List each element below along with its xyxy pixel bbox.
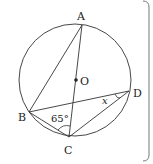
label-o: O	[80, 75, 89, 88]
segment-bd	[29, 91, 129, 112]
label-b: B	[18, 111, 26, 124]
geometry-diagram: A B C D O 65° x	[0, 0, 153, 164]
label-a: A	[76, 10, 86, 23]
segment-ab	[29, 25, 82, 112]
label-d: D	[133, 87, 142, 100]
label-c: C	[64, 144, 72, 157]
frame-bracket	[143, 1, 149, 161]
angle-label-d: x	[102, 95, 108, 106]
angle-arc-c	[58, 126, 70, 131]
center-point-o	[74, 78, 78, 82]
angle-label-c: 65°	[51, 113, 69, 124]
angle-arc-d	[115, 94, 120, 98]
